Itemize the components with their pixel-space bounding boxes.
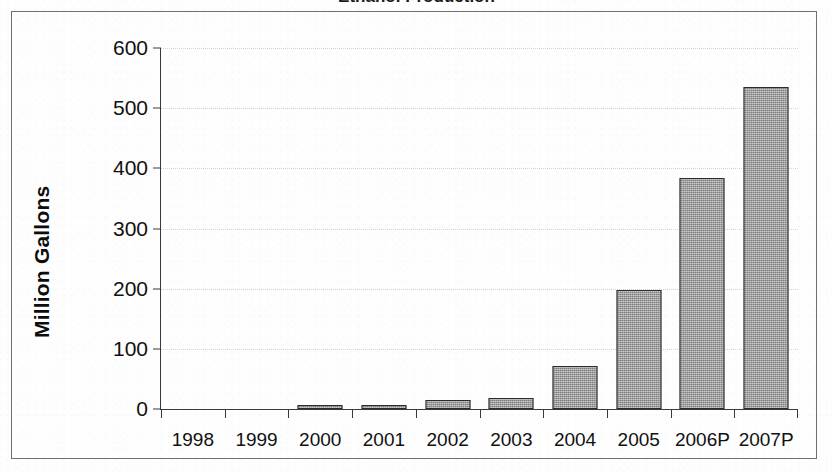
bar-slot: 2006P: [671, 48, 735, 409]
bar: [553, 366, 598, 409]
x-axis-tick-mark: [543, 409, 544, 418]
y-axis-tick-mark: [153, 288, 161, 289]
x-axis-tick-label: 2007P: [739, 429, 794, 451]
x-axis-tick-label: 2001: [363, 429, 405, 451]
x-axis-tick-mark: [480, 409, 481, 418]
bar-slot: 2003: [480, 48, 544, 409]
x-axis-tick-label: 2000: [299, 429, 341, 451]
x-axis-end-tick: [797, 409, 798, 418]
plot-area: 0100200300400500600 19981999200020012002…: [160, 48, 798, 410]
bar: [361, 405, 406, 409]
y-axis-tick-mark: [153, 348, 161, 349]
x-axis-tick-mark: [671, 409, 672, 418]
scanned-page: Ethanol Production Million Gallons 01002…: [0, 0, 833, 473]
x-axis-tick-label: 1998: [172, 429, 214, 451]
y-axis-tick-label: 300: [113, 217, 148, 241]
bar: [489, 398, 534, 409]
y-axis-tick-mark: [153, 168, 161, 169]
bar: [680, 178, 725, 409]
x-axis-tick-mark: [352, 409, 353, 418]
y-axis-tick-label: 500: [113, 96, 148, 120]
chart-title-cropped: Ethanol Production: [0, 0, 833, 6]
bar: [425, 400, 470, 409]
y-axis-tick-label: 400: [113, 156, 148, 180]
y-axis-tick-mark: [153, 409, 161, 410]
x-axis-tick-label: 2006P: [675, 429, 730, 451]
x-axis-tick-mark: [607, 409, 608, 418]
x-axis-tick-label: 2005: [618, 429, 660, 451]
bar-slot: 2005: [607, 48, 671, 409]
x-axis-tick-mark: [225, 409, 226, 418]
bar-slot: 2004: [543, 48, 607, 409]
y-axis-tick-mark: [153, 48, 161, 49]
y-axis-tick-label: 0: [136, 397, 148, 421]
bar-slot: 1998: [161, 48, 225, 409]
bar-slot: 2000: [288, 48, 352, 409]
chart-title-text: Ethanol Production: [0, 0, 833, 6]
x-axis-tick-label: 1999: [235, 429, 277, 451]
x-axis-tick-label: 2003: [490, 429, 532, 451]
bar-slot: 1999: [225, 48, 289, 409]
y-axis-tick-mark: [153, 108, 161, 109]
x-axis-tick-mark: [288, 409, 289, 418]
x-axis-tick-mark: [416, 409, 417, 418]
y-axis-tick-mark: [153, 228, 161, 229]
y-axis-title: Million Gallons: [6, 110, 36, 340]
x-axis-tick-mark: [161, 409, 162, 418]
y-axis-tick-label: 100: [113, 337, 148, 361]
bar-slot: 2001: [352, 48, 416, 409]
x-axis-tick-label: 2004: [554, 429, 596, 451]
bar: [744, 87, 789, 409]
bar: [616, 290, 661, 409]
bar: [298, 405, 343, 409]
y-axis-tick-label: 200: [113, 277, 148, 301]
y-axis-title-text: Million Gallons: [30, 186, 54, 338]
bar-slot: 2007P: [734, 48, 798, 409]
bar-slot: 2002: [416, 48, 480, 409]
x-axis-tick-label: 2002: [427, 429, 469, 451]
x-axis-tick-mark: [734, 409, 735, 418]
y-axis-tick-label: 600: [113, 36, 148, 60]
